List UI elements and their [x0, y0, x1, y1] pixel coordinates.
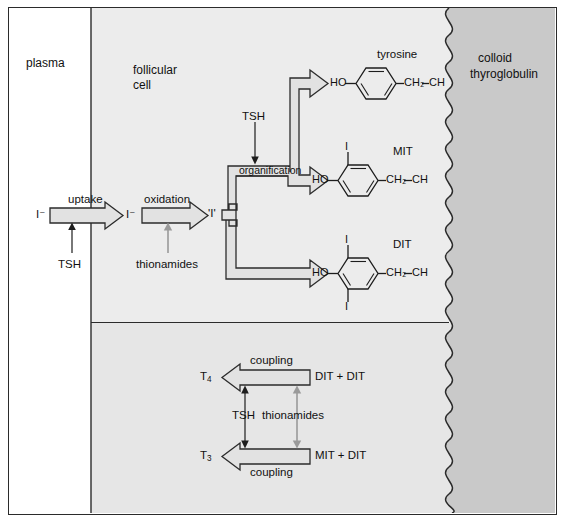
dit-ch2-label: CH₂	[386, 266, 406, 280]
thionamides-oxidation-label: thionamides	[136, 258, 198, 272]
product-label-t3: T3	[200, 449, 212, 466]
oxidised-iodine-label: 'I'	[208, 207, 216, 221]
residue-name-dit: DIT	[393, 238, 412, 252]
dit-ho-label: HO	[312, 266, 329, 280]
region-label-colloid-line2: thyroglobulin	[470, 68, 538, 82]
mit-iodine-label-top: I	[345, 140, 348, 154]
residue-name-tyrosine: tyrosine	[377, 48, 417, 62]
tsh-coupling-label: TSH	[232, 409, 255, 423]
tyrosine-ho-label: HO	[330, 76, 347, 90]
iodide-cell-label: I⁻	[126, 208, 135, 222]
region-label-colloid-line1: colloid	[478, 52, 512, 66]
uptake-arrow-label: uptake	[68, 193, 103, 207]
tyrosine-ch-label: CH	[429, 76, 445, 90]
residue-name-mit: MIT	[393, 145, 413, 159]
region-label-follicular-cell-line1: follicular	[133, 64, 177, 78]
mit-ch2-label: CH₂	[386, 173, 406, 187]
organification-label: organification	[239, 164, 301, 178]
region-label-plasma: plasma	[26, 57, 65, 71]
t4-subscript: 4	[207, 375, 212, 384]
t4-base: T	[200, 370, 207, 382]
tyrosine-ch2-label: CH₂	[404, 76, 424, 90]
thionamides-coupling-label: thionamides	[262, 409, 324, 423]
dit-ch-label: CH	[412, 266, 428, 280]
diagram-frame	[8, 7, 557, 515]
coupling-label-t3: coupling	[250, 466, 293, 480]
tsh-organification-label: TSH	[242, 110, 265, 124]
reactants-label-t3: MIT + DIT	[315, 449, 366, 463]
coupling-label-t4: coupling	[250, 354, 293, 368]
tsh-uptake-label: TSH	[58, 258, 81, 272]
t3-base: T	[200, 449, 207, 461]
mit-ho-label: HO	[312, 173, 329, 187]
mit-ch-label: CH	[412, 173, 428, 187]
product-label-t4: T4	[200, 370, 212, 387]
reactants-label-t4: DIT + DIT	[315, 370, 365, 384]
iodide-plasma-label: I⁻	[36, 208, 45, 222]
t3-subscript: 3	[207, 454, 212, 463]
diagram-root: plasma follicular cell colloid thyroglob…	[0, 0, 566, 523]
region-label-follicular-cell-line2: cell	[133, 79, 151, 93]
oxidation-arrow-label: oxidation	[144, 193, 190, 207]
dit-iodine-label-bottom: I	[345, 300, 348, 314]
dit-iodine-label-top: I	[345, 233, 348, 247]
